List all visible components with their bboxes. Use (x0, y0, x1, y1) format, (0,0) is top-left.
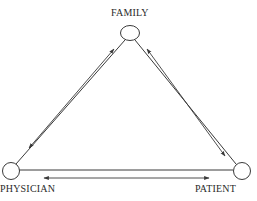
node-patient-circle (234, 163, 251, 180)
node-label-family: FAMILY (111, 7, 149, 18)
relationship-arrows (29, 49, 225, 178)
triangle-diagram: FAMILY PHYSICIAN PATIENT (0, 0, 257, 201)
triangle-edges (16, 40, 236, 170)
edge-family-physician (16, 40, 125, 164)
diagram-svg (0, 0, 257, 201)
node-label-patient: PATIENT (195, 183, 236, 194)
node-family-circle (121, 26, 140, 41)
node-label-physician: PHYSICIAN (0, 183, 55, 194)
arrow-family-patient (147, 49, 225, 156)
arrow-family-physician (29, 49, 114, 148)
node-physician-circle (3, 163, 20, 180)
nodes (3, 26, 251, 180)
